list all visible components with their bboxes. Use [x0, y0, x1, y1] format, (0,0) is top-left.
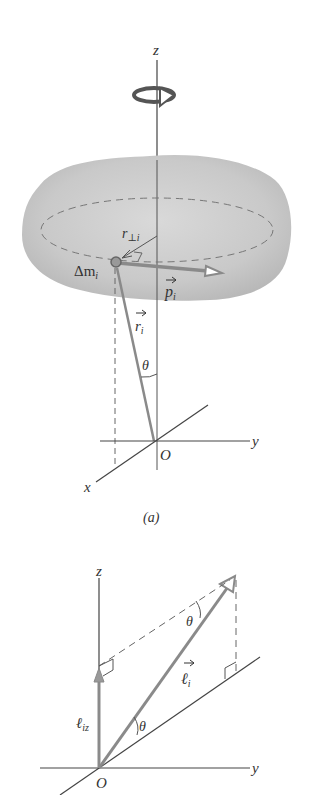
angle-arc-top [196, 601, 201, 618]
origin-label: O [160, 447, 171, 463]
rotation-arrow-icon [134, 88, 174, 106]
y-axis-label-b: y [250, 760, 259, 776]
x-axis [96, 405, 208, 482]
z-component-label: ℓiz [76, 715, 89, 733]
dashed-projection-top [99, 580, 230, 666]
figure-b: z y O ℓi ℓiz θ θ [40, 563, 260, 795]
x-axis-label: x [83, 479, 91, 495]
angular-momentum-arrowhead [220, 576, 235, 592]
right-angle-mark-plane [225, 662, 236, 679]
theta-label: θ [142, 358, 149, 373]
z-axis-label: z [152, 42, 159, 58]
mass-element-label: Δmi [74, 263, 98, 281]
z-component-arrowhead [94, 668, 104, 682]
caption-a: (a) [143, 510, 160, 526]
angular-momentum-vector [99, 584, 230, 768]
x-axis-b [60, 657, 260, 795]
y-axis-label: y [250, 433, 259, 449]
mass-element-dot [111, 257, 121, 267]
position-label: ri [135, 318, 144, 336]
angle-arc [141, 374, 157, 377]
theta-label-bottom: θ [139, 719, 146, 734]
theta-label-top: θ [186, 614, 193, 629]
figure-a: z r⊥i pi Δmi [22, 42, 291, 526]
origin-label-b: O [96, 775, 107, 791]
figure-canvas: z r⊥i pi Δmi [0, 0, 318, 795]
z-axis-label-b: z [95, 563, 102, 579]
angular-momentum-label: ℓi [181, 670, 191, 689]
